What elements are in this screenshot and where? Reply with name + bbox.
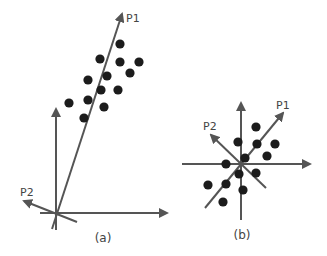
data-point: [102, 71, 111, 80]
data-point: [251, 122, 260, 131]
data-point: [64, 98, 73, 107]
data-point: [115, 57, 124, 66]
data-point: [79, 113, 88, 122]
data-point: [221, 159, 230, 168]
panel-b-p1-label: P1: [276, 99, 290, 112]
data-point: [96, 85, 105, 94]
data-point: [240, 153, 249, 162]
data-point: [83, 95, 92, 104]
data-point: [221, 179, 230, 188]
data-point: [234, 169, 243, 178]
data-point: [83, 75, 92, 84]
data-point: [95, 54, 104, 63]
data-point: [134, 57, 143, 66]
data-point: [251, 168, 260, 177]
data-point: [125, 68, 134, 77]
panel-b: P1 P2 (b): [182, 99, 310, 242]
panel-b-p2-label: P2: [203, 120, 217, 133]
data-point: [233, 137, 242, 146]
panel-a-points: [64, 39, 143, 122]
panel-a-p2-axis: [24, 201, 77, 222]
data-point: [262, 151, 271, 160]
panel-a-p1-label: P1: [126, 12, 140, 25]
data-point: [99, 102, 108, 111]
data-point: [270, 139, 279, 148]
panel-a: P1 P2 (a): [20, 12, 167, 245]
data-point: [252, 139, 261, 148]
data-point: [203, 180, 212, 189]
panel-a-p2-label: P2: [20, 186, 34, 199]
panel-b-caption: (b): [234, 228, 251, 242]
pca-diagram: P1 P2 (a) P1 P2 (b): [0, 0, 327, 256]
data-point: [115, 39, 124, 48]
data-point: [113, 85, 122, 94]
panel-a-caption: (a): [95, 231, 112, 245]
data-point: [238, 185, 247, 194]
data-point: [218, 197, 227, 206]
panel-a-p1-axis: [52, 14, 122, 229]
